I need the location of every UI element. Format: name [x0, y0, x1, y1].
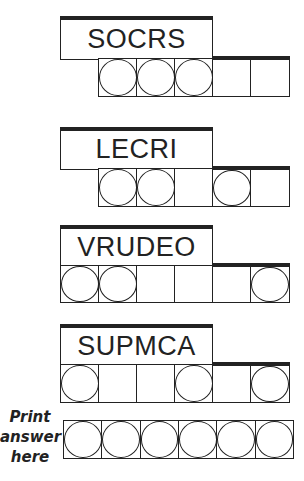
answer-label-line2: answer — [0, 427, 60, 447]
letter-cell[interactable] — [174, 364, 214, 403]
letter-cell[interactable] — [136, 58, 176, 97]
circle-marker-icon — [64, 421, 102, 458]
letter-cell[interactable] — [212, 263, 252, 304]
circle-marker-icon — [61, 266, 99, 302]
circle-marker-icon — [141, 421, 179, 458]
answer-label-line1: Print — [0, 407, 60, 427]
answer-label-line3: here — [0, 447, 60, 467]
circle-marker-icon — [251, 267, 289, 303]
answer-label: Print answer here — [0, 407, 60, 467]
letter-cell[interactable] — [250, 56, 290, 98]
circle-marker-icon — [137, 59, 175, 96]
scrambled-word-1: SOCRS — [60, 16, 213, 60]
letter-cell[interactable] — [60, 265, 100, 303]
letter-cell[interactable] — [212, 362, 252, 404]
letter-cell[interactable] — [212, 166, 252, 208]
circle-marker-icon — [175, 59, 213, 96]
letter-cell[interactable] — [136, 364, 176, 403]
circle-marker-icon — [175, 365, 213, 402]
answer-cell[interactable] — [140, 420, 180, 459]
circle-marker-icon — [102, 421, 140, 458]
letter-cell[interactable] — [250, 263, 290, 304]
letter-cell[interactable] — [98, 265, 138, 303]
circle-marker-icon — [99, 169, 137, 206]
letter-cell[interactable] — [136, 168, 176, 207]
letter-cell[interactable] — [174, 265, 214, 303]
scrambled-word-3: VRUDEO — [60, 225, 213, 267]
answer-cell[interactable] — [101, 420, 141, 459]
circle-marker-icon — [213, 170, 251, 207]
letter-cell[interactable] — [250, 362, 290, 404]
circle-marker-icon — [251, 366, 289, 403]
answer-cell[interactable] — [255, 420, 295, 459]
letter-cell[interactable] — [174, 58, 214, 97]
circle-marker-icon — [137, 169, 175, 206]
letter-cell[interactable] — [212, 56, 252, 98]
circle-marker-icon — [217, 421, 255, 458]
scrambled-word-4: SUPMCA — [60, 324, 213, 366]
letter-cell[interactable] — [250, 166, 290, 208]
answer-cell[interactable] — [216, 420, 256, 459]
letter-cell[interactable] — [174, 168, 214, 207]
letter-cell[interactable] — [98, 168, 138, 207]
answer-cell[interactable] — [63, 420, 103, 459]
answer-cell[interactable] — [178, 420, 218, 459]
circle-marker-icon — [99, 59, 137, 96]
circle-marker-icon — [99, 266, 137, 302]
circle-marker-icon — [179, 421, 217, 458]
circle-marker-icon — [256, 421, 294, 458]
letter-cell[interactable] — [98, 364, 138, 403]
letter-cell[interactable] — [136, 265, 176, 303]
scrambled-word-2: LECRI — [60, 127, 213, 170]
letter-cell[interactable] — [60, 364, 100, 403]
letter-cell[interactable] — [98, 58, 138, 97]
circle-marker-icon — [61, 365, 99, 402]
